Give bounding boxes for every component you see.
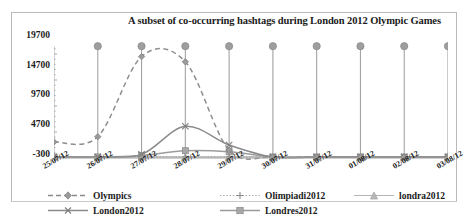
y-tick-label-4700: 4700 xyxy=(8,119,50,129)
olympics-key-icon xyxy=(48,190,88,201)
y-tick-label--300: -300 xyxy=(8,149,50,159)
y-tick-label-19700: 19700 xyxy=(8,30,50,40)
plot-svg xyxy=(54,30,448,162)
chart-legend: Olympics Olimpiadi2012 londra2012 xyxy=(24,189,456,219)
legend-label-olympics: Olympics xyxy=(93,191,132,201)
legend-label-olimpiadi2012: Olimpiadi2012 xyxy=(265,191,325,201)
legend-item-londres2012[interactable]: Londres2012 xyxy=(220,204,318,217)
legend-label-londres2012: Londres2012 xyxy=(265,206,318,216)
dropline-circle-3 xyxy=(182,43,189,50)
legend-label-london2012: London2012 xyxy=(93,206,144,216)
londres2012-key-icon xyxy=(220,205,260,216)
dropline-circle-8 xyxy=(401,43,408,50)
dropline-circle-7 xyxy=(357,43,364,50)
londra2012-key-icon xyxy=(354,190,394,201)
y-tick-label-9700: 9700 xyxy=(8,89,50,99)
series-line-Olympics xyxy=(54,48,448,159)
dropline-circle-5 xyxy=(269,43,276,50)
london2012-key-icon xyxy=(48,205,88,216)
olimpiadi2012-key-icon xyxy=(220,190,260,201)
chart-title: A subset of co-occurring hashtags during… xyxy=(112,15,457,26)
x-axis-labels: 25/07/1226/07/1227/07/1228/07/1229/07/12… xyxy=(12,159,458,191)
legend-divider xyxy=(11,201,457,202)
legend-label-londra2012: londra2012 xyxy=(399,191,445,201)
plot-area xyxy=(54,30,448,158)
legend-item-london2012[interactable]: London2012 xyxy=(48,204,144,217)
dropline-circle-2 xyxy=(138,43,145,50)
dropline-circle-6 xyxy=(313,43,320,50)
y-tick-label-14700: 14700 xyxy=(8,60,50,70)
series-line-London2012 xyxy=(54,126,448,158)
chart-frame: A subset of co-occurring hashtags during… xyxy=(11,12,457,202)
dropline-circle-1 xyxy=(94,43,101,50)
y-axis-labels: 19700 14700 9700 4700 -300 xyxy=(12,30,52,160)
dropline-circle-9 xyxy=(444,43,448,50)
dropline-circle-4 xyxy=(226,43,233,50)
